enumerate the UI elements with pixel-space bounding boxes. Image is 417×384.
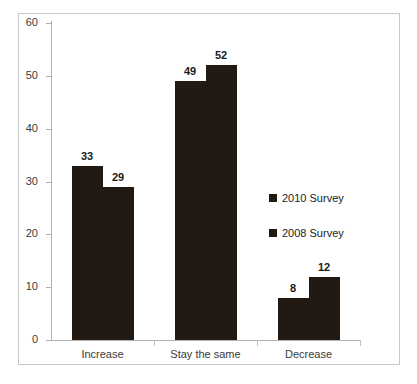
y-axis-tick-mark [46,129,52,130]
y-axis-tick-label: 50 [26,68,38,83]
x-axis-tick-mark [360,340,361,346]
x-axis-line [51,340,361,341]
square-marker-icon [269,229,277,237]
y-axis-tick-mark [46,287,52,288]
bar-value-label: 12 [303,261,346,274]
legend-item-label: 2008 Survey [282,226,344,240]
y-axis-tick-label: 60 [26,15,38,30]
bar[interactable] [103,187,134,340]
chart-legend: 2010 Survey2008 Survey [269,188,344,258]
legend-item-label: 2010 Survey [282,191,344,205]
y-axis-tick-label: 30 [26,174,38,189]
x-axis-category-label: Decrease [257,347,360,362]
x-axis-category-label: Stay the same [154,347,257,362]
y-axis-tick-label: 20 [26,226,38,241]
x-axis-category-label: Increase [51,347,154,362]
legend-item[interactable]: 2008 Survey [269,223,344,237]
y-axis-tick-mark [46,234,52,235]
y-axis-tick-label: 0 [32,332,38,347]
bar-value-label: 33 [66,150,109,163]
bar[interactable] [175,81,206,340]
y-axis-tick-mark [46,76,52,77]
y-axis-tick-label: 10 [26,279,38,294]
bar[interactable] [309,277,340,340]
square-marker-icon [269,194,277,202]
bar-value-label: 52 [200,49,243,62]
bar[interactable] [72,166,103,340]
legend-item[interactable]: 2010 Survey [269,188,344,202]
bar[interactable] [278,298,309,340]
bar-chart: 0102030405060 IncreaseStay the sameDecre… [0,0,417,384]
bar-value-label: 29 [97,171,140,184]
y-axis-tick-mark [46,182,52,183]
y-axis-tick-label: 40 [26,121,38,136]
x-axis-tick-mark [257,340,258,346]
y-axis-tick-mark [46,340,52,341]
bar[interactable] [206,65,237,340]
x-axis-tick-mark [154,340,155,346]
y-axis-tick-mark [46,23,52,24]
